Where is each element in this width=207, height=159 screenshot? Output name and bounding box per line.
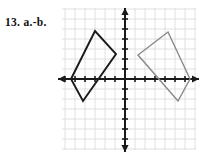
plotted-shapes (71, 31, 190, 101)
y-axis-arrow-bottom (121, 145, 128, 152)
axes (58, 8, 199, 152)
figure-container: 13. a.-b. (0, 0, 207, 159)
x-axis-arrow-left (58, 75, 65, 82)
preimage-quadrilateral (71, 31, 116, 101)
coordinate-graph (0, 0, 207, 159)
x-axis-arrow-right (192, 75, 199, 82)
image-quadrilateral (138, 32, 190, 101)
